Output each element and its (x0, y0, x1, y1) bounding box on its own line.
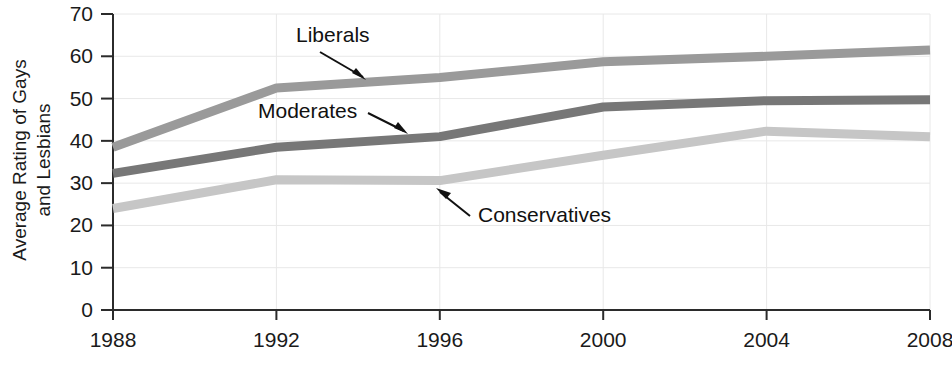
y-tick-labels: 010203040506070 (70, 2, 93, 321)
data-series-group (113, 50, 930, 209)
y-tick-marks (101, 14, 113, 310)
x-tick-marks (113, 310, 930, 320)
x-tick-label: 2008 (907, 328, 952, 351)
y-axis-title: Average Rating of Gays and Lesbians (9, 59, 54, 260)
annotation-moderates-arrowhead (394, 122, 408, 134)
y-tick-label: 50 (70, 87, 93, 110)
x-tick-label: 2000 (580, 328, 627, 351)
annotation-conservatives-arrowhead (436, 188, 451, 199)
y-tick-label: 40 (70, 129, 93, 152)
annotation-conservatives: Conservatives (436, 188, 611, 226)
line-chart: 010203040506070 198819921996200020042008… (0, 0, 952, 365)
annotation-moderates-label: Moderates (258, 99, 357, 122)
x-tick-label: 1996 (416, 328, 463, 351)
y-axis: 010203040506070 (70, 2, 113, 321)
y-tick-label: 70 (70, 2, 93, 25)
annotation-liberals: Liberals (296, 23, 370, 80)
y-tick-label: 20 (70, 213, 93, 236)
series-line-conservatives (113, 131, 930, 208)
y-axis-title-line2: and Lesbians (33, 103, 54, 216)
y-tick-label: 30 (70, 171, 93, 194)
x-axis: 198819921996200020042008 (90, 310, 952, 351)
x-tick-label: 2004 (743, 328, 790, 351)
annotation-moderates: Moderates (258, 99, 408, 134)
x-tick-label: 1992 (253, 328, 300, 351)
annotation-liberals-label: Liberals (296, 23, 370, 46)
y-axis-title-line1: Average Rating of Gays (9, 59, 30, 260)
chart-container: 010203040506070 198819921996200020042008… (0, 0, 952, 365)
y-tick-label: 0 (81, 298, 93, 321)
x-tick-labels: 198819921996200020042008 (90, 328, 952, 351)
y-tick-label: 10 (70, 256, 93, 279)
annotation-conservatives-label: Conservatives (478, 203, 611, 226)
x-tick-label: 1988 (90, 328, 137, 351)
y-tick-label: 60 (70, 44, 93, 67)
